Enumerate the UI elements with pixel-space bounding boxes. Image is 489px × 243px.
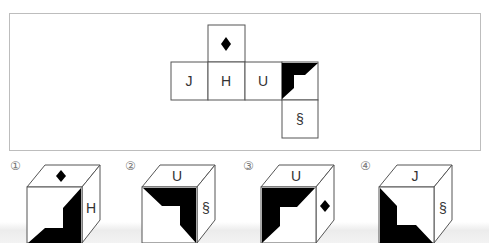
net-label-section: §: [296, 111, 304, 127]
diagram-canvas: J H U § ① H ② U § ③ U: [0, 0, 489, 243]
top-face-label: J: [412, 168, 419, 184]
option-4[interactable]: ④ J §: [360, 159, 452, 243]
net-label-h: H: [221, 73, 231, 89]
top-face-label: U: [291, 168, 301, 184]
option-number: ③: [243, 159, 254, 173]
option-2[interactable]: ② U §: [125, 159, 215, 243]
right-face-label: §: [202, 200, 210, 216]
top-face-label: U: [172, 168, 182, 184]
option-3[interactable]: ③ U: [243, 159, 334, 243]
net-label-j: J: [186, 73, 193, 89]
right-face-label: H: [86, 200, 96, 216]
option-number: ④: [360, 159, 371, 173]
net-label-u: U: [258, 73, 268, 89]
option-number: ②: [125, 159, 136, 173]
option-1[interactable]: ① H: [10, 159, 100, 243]
right-face-label: §: [439, 200, 447, 216]
option-number: ①: [10, 159, 21, 173]
